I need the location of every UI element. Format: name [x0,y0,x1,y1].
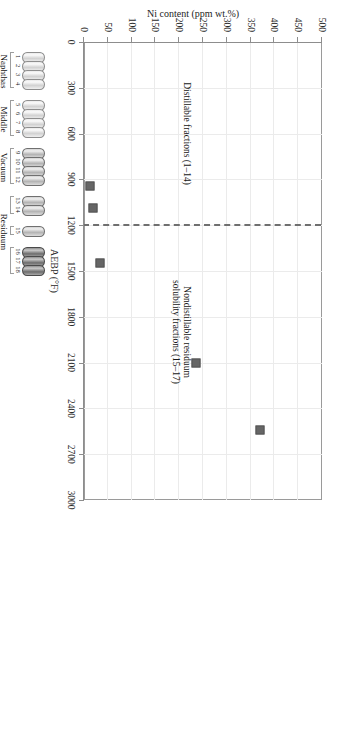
gridline-horizontal [250,42,251,500]
x-tick-label: 0 [66,40,76,45]
gridline-vertical [84,271,322,272]
fraction-group-vacuum-gas-oils: 9101112Vacuumgas oils [7,148,47,187]
fraction-group-residuum-16-18: 161718 [7,247,47,277]
fraction-group-naphthas: 1234Naphthas [7,52,47,91]
annotation-nondistillable-line2: solubility fractions (15–17) [169,262,181,402]
group-brace [10,100,14,136]
group-brace [10,247,14,274]
fraction-number: 5 [13,100,22,109]
fraction-group-label: Residuumsolubilityfractions [0,212,9,252]
y-tick [154,37,155,42]
x-tick-label: 1200 [66,216,76,235]
y-tick-label: 350 [246,2,256,32]
gridline-vertical [84,317,322,318]
x-tick [79,363,84,364]
fraction-numbers: 15 [13,226,22,235]
fraction-number: 1 [13,52,22,61]
fraction-cylinder-icon [22,226,45,237]
x-tick [79,271,84,272]
gridline-vertical [84,88,322,89]
data-point-marker [95,259,104,268]
x-tick [79,317,84,318]
fraction-group-label-line: Vacuum [0,134,9,201]
y-tick [250,37,251,42]
x-tick-label: 2700 [66,445,76,464]
gridline-horizontal [202,42,203,500]
fraction-numbers: 5678 [13,100,22,136]
x-tick-label: 900 [66,172,76,186]
y-axis-title: Ni content (ppm wt.%) [147,8,239,19]
annotation-nondistillable-line1: Nondistillable residuum [181,262,193,402]
y-axis-line [84,42,322,43]
plot-area: Nondistillable residuum solubility fract… [84,42,322,500]
x-tick-label: 600 [66,126,76,140]
gridline-vertical [84,408,322,409]
x-tick-label: 300 [66,81,76,95]
data-point-marker [191,358,200,367]
gridline-vertical [84,363,322,364]
fraction-cylinder-icon [22,205,45,216]
x-tick [79,179,84,180]
x-tick-label: 3000 [66,491,76,510]
x-tick-label: 2100 [66,353,76,372]
x-tick [79,134,84,135]
data-point-marker [85,181,94,190]
gridline-horizontal [107,42,108,500]
data-point-marker [88,204,97,213]
gridline-vertical [84,134,322,135]
x-tick [79,408,84,409]
cylinder-stack [22,148,47,184]
annotation-distillable-line1: Distillable fractions (1–14) [181,64,193,204]
rotated-figure: Nondistillable residuum solubility fract… [0,0,352,752]
gridline-horizontal [226,42,227,500]
fraction-number: 8 [13,127,22,136]
x-tick-label: 1500 [66,262,76,281]
fraction-cylinder-icon [22,79,45,90]
y-tick-label: 500 [317,2,327,32]
fraction-number: 12 [13,175,22,184]
gridline-horizontal [131,42,132,500]
annotation-distillable: Distillable fractions (1–14) [181,64,193,204]
fraction-numbers: 9101112 [13,148,22,184]
x-tick [79,454,84,455]
x-tick-label: 2400 [66,399,76,418]
cylinder-stack [22,247,47,274]
x-tick-label: 1800 [66,307,76,326]
y-tick-label: 400 [269,2,279,32]
divider-line [83,224,321,226]
group-brace [10,148,14,184]
fraction-number: 13 [13,196,22,205]
cylinder-stack [22,100,47,136]
fraction-number: 7 [13,118,22,127]
y-tick-label: 450 [293,2,303,32]
fraction-number: 16 [13,247,22,256]
y-tick-label: 0 [79,2,89,32]
y-tick [273,37,274,42]
cylinder-stack [22,226,47,235]
cylinder-stack [22,52,47,88]
x-axis-title: AEBP (°F) [49,42,60,500]
x-tick [79,88,84,89]
fraction-number: 11 [13,166,22,175]
crude-oil-fractions-diagram: Crude oil fractions 1234Naphthas5678Midd… [3,52,47,500]
group-brace [10,52,14,88]
fraction-cylinder-icon [22,175,45,186]
fraction-number: 3 [13,70,22,79]
group-brace [10,226,14,235]
y-tick-label: 50 [103,2,113,32]
fraction-group-label-line: Residuum [0,212,9,252]
fraction-number: 18 [13,265,22,274]
y-tick [297,37,298,42]
fraction-number: 14 [13,205,22,214]
annotation-nondistillable: Nondistillable residuum solubility fract… [169,262,192,402]
fraction-number: 15 [13,226,22,235]
gridline-horizontal [297,42,298,500]
fraction-cylinder-icon [22,127,45,138]
fraction-numbers: 1314 [13,196,22,214]
cylinder-stack [22,196,47,214]
y-tick [131,37,132,42]
fraction-numbers: 161718 [13,247,22,274]
y-tick [202,37,203,42]
y-tick [226,37,227,42]
y-tick [107,37,108,42]
